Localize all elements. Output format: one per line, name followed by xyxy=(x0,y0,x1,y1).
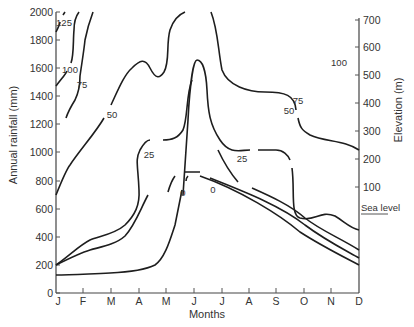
right-tick-700: 700 xyxy=(363,14,381,26)
right-tick-100: 100 xyxy=(363,181,381,193)
contour-50 xyxy=(56,12,185,195)
month-mar: M xyxy=(107,295,116,307)
month-aug: A xyxy=(245,295,252,307)
y-tick-0: 0 xyxy=(47,287,53,299)
y-tick-1200: 1200 xyxy=(30,118,54,130)
sea-level-label: Sea level xyxy=(361,202,400,213)
x-ticks xyxy=(83,288,331,293)
y-tick-2000: 2000 xyxy=(30,6,54,18)
month-may: M xyxy=(162,295,171,307)
contour-label-50-right: 50 xyxy=(284,105,295,116)
y-tick-1400: 1400 xyxy=(30,90,54,102)
x-axis-title: Months xyxy=(189,308,226,320)
month-jul: J xyxy=(219,295,224,307)
contour-chart: 0 200 400 600 800 1000 1200 1400 1600 18… xyxy=(0,0,414,327)
y-axis-title: Annual rainfall (mm) xyxy=(7,86,19,184)
month-jan: J xyxy=(55,295,60,307)
contour-label-75-right: 75 xyxy=(293,95,304,106)
contour-label-100-left: 100 xyxy=(62,64,78,75)
month-dec: D xyxy=(355,295,363,307)
right-tick-600: 600 xyxy=(363,41,381,53)
contour-75-right xyxy=(211,12,359,150)
contour-25 xyxy=(56,80,359,265)
contour-label-25-left: 25 xyxy=(144,149,155,160)
month-nov: N xyxy=(327,295,335,307)
contour-label-25-right: 25 xyxy=(237,153,248,164)
month-oct: O xyxy=(300,295,308,307)
right-tick-400: 400 xyxy=(363,97,381,109)
y-tick-400: 400 xyxy=(35,231,53,243)
month-jun: J xyxy=(191,295,196,307)
month-sep: S xyxy=(272,295,279,307)
right-tick-300: 300 xyxy=(363,125,381,137)
month-apr: A xyxy=(135,295,142,307)
right-tick-500: 500 xyxy=(363,69,381,81)
contour-label-75-left: 75 xyxy=(77,79,88,90)
month-feb: F xyxy=(80,295,86,307)
contour-label-50-left: 50 xyxy=(107,109,118,120)
contour-label-125: 125 xyxy=(56,17,72,28)
right-axis-title: Elevation (m) xyxy=(392,78,404,143)
contour-lines xyxy=(56,12,359,275)
y-tick-800: 800 xyxy=(35,175,53,187)
y-tick-1600: 1600 xyxy=(30,62,54,74)
right-tick-200: 200 xyxy=(363,153,381,165)
y-tick-600: 600 xyxy=(35,203,53,215)
y-tick-1000: 1000 xyxy=(30,146,54,158)
contour-0-lower xyxy=(56,176,359,275)
contour-0-upper xyxy=(56,172,359,265)
contour-label-0-left: 0 xyxy=(180,187,185,198)
contour-label-100-right: 100 xyxy=(331,57,347,68)
y-tick-1800: 1800 xyxy=(30,34,54,46)
y-tick-200: 200 xyxy=(35,259,53,271)
contour-label-0-right: 0 xyxy=(210,184,215,195)
